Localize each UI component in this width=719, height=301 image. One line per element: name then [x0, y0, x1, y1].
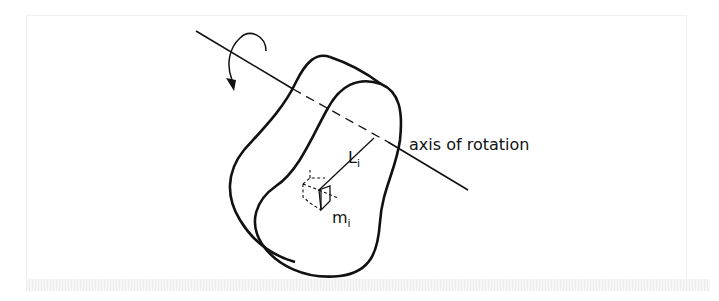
- distance-label: Li: [348, 148, 360, 170]
- body-top-edge: [330, 57, 381, 84]
- mass-element-cube-icon: [303, 170, 338, 210]
- body-back-face: [230, 56, 330, 262]
- distance-line: [319, 138, 374, 190]
- rotation-diagram: Li mi axis of rotation: [0, 0, 719, 301]
- mass-label: mi: [332, 208, 351, 230]
- rotation-arrow-icon: [226, 34, 266, 91]
- axis-line-hidden: [293, 89, 388, 142]
- axis-line-front: [196, 31, 293, 89]
- axis-of-rotation-label: axis of rotation: [409, 135, 529, 154]
